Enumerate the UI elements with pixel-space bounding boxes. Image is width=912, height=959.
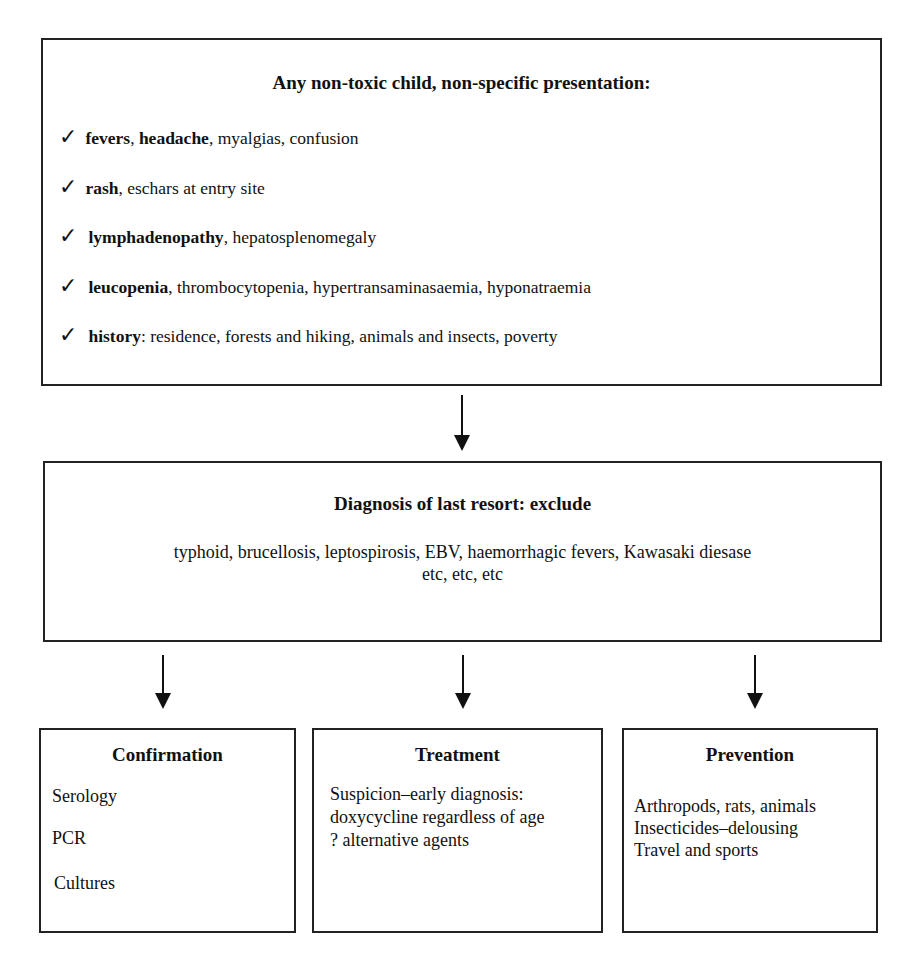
diagnosis-etc: etc, etc, etc xyxy=(45,562,880,586)
prevention-line: Arthropods, rats, animals xyxy=(634,794,816,818)
confirmation-item: PCR xyxy=(52,826,86,850)
check-icon: ✓ xyxy=(59,273,77,298)
symptom-item-history: ✓history: residence, forests and hiking,… xyxy=(59,322,557,347)
check-icon: ✓ xyxy=(59,322,77,347)
treatment-line: ? alternative agents xyxy=(330,828,469,852)
symptom-item-fevers: ✓fevers, headache, myalgias, confusion xyxy=(59,124,359,149)
diagnosis-box: Diagnosis of last resort: exclude typhoi… xyxy=(43,461,882,642)
symptom-item-leucopenia: ✓leucopenia, thrombocytopenia, hypertran… xyxy=(59,273,591,298)
symptom-item-rash: ✓rash, eschars at entry site xyxy=(59,174,265,199)
treatment-line: Suspicion–early diagnosis: xyxy=(330,782,523,806)
presentation-box: Any non-toxic child, non-specific presen… xyxy=(41,38,882,386)
treatment-box: Treatment Suspicion–early diagnosis: dox… xyxy=(312,728,603,933)
treatment-title: Treatment xyxy=(314,744,601,766)
confirmation-title: Confirmation xyxy=(41,744,294,766)
down-arrow-icon xyxy=(162,655,164,695)
down-arrow-icon xyxy=(462,655,464,695)
prevention-line: Insecticides–delousing xyxy=(634,816,798,840)
prevention-box: Prevention Arthropods, rats, animals Ins… xyxy=(622,728,878,933)
diagnosis-exclusions: typhoid, brucellosis, leptospirosis, EBV… xyxy=(45,540,880,564)
confirmation-item: Serology xyxy=(52,784,117,808)
confirmation-item: Cultures xyxy=(54,871,115,895)
down-arrow-icon xyxy=(461,395,463,437)
prevention-line: Travel and sports xyxy=(634,838,758,862)
down-arrow-icon xyxy=(754,655,756,695)
check-icon: ✓ xyxy=(59,223,77,248)
prevention-title: Prevention xyxy=(624,744,876,766)
presentation-title: Any non-toxic child, non-specific presen… xyxy=(43,72,880,94)
check-icon: ✓ xyxy=(59,174,77,199)
confirmation-box: Confirmation Serology PCR Cultures xyxy=(39,728,296,933)
treatment-line: doxycycline regardless of age xyxy=(330,805,544,829)
symptom-item-lymphadenopathy: ✓lymphadenopathy, hepatosplenomegaly xyxy=(59,223,376,248)
check-icon: ✓ xyxy=(59,124,77,149)
diagnosis-title: Diagnosis of last resort: exclude xyxy=(45,493,880,515)
